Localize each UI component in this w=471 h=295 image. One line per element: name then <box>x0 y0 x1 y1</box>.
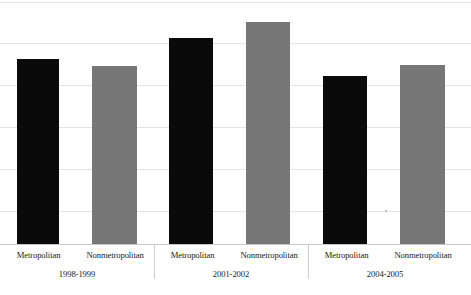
bar-nonmetropolitan-2004-2005 <box>400 65 445 244</box>
bar-nonmetropolitan-1998-1999 <box>92 66 137 244</box>
series-label-nonmetropolitan: Nonmetropolitan <box>74 250 156 260</box>
series-label-metropolitan: Metropolitan <box>154 250 231 260</box>
group-label-1998-1999: 1998-1999 <box>0 269 154 279</box>
bar-metropolitan-2004-2005 <box>323 76 367 244</box>
gridline <box>0 43 471 44</box>
bar-nonmetropolitan-2001-2002 <box>246 22 290 244</box>
series-label-nonmetropolitan: Nonmetropolitan <box>382 250 464 260</box>
gridline <box>0 2 471 3</box>
category-axis-labels: Metropolitan Nonmetropolitan Metropolita… <box>0 245 471 295</box>
plot-area <box>0 0 471 245</box>
series-label-metropolitan: Metropolitan <box>0 250 77 260</box>
bar-metropolitan-1998-1999 <box>17 59 59 244</box>
bar-chart: Metropolitan Nonmetropolitan Metropolita… <box>0 0 471 295</box>
group-label-2004-2005: 2004-2005 <box>308 269 462 279</box>
series-label-metropolitan: Metropolitan <box>308 250 385 260</box>
artifact-speck <box>385 210 387 212</box>
bar-metropolitan-2001-2002 <box>169 38 213 244</box>
series-label-nonmetropolitan: Nonmetropolitan <box>228 250 310 260</box>
group-label-2001-2002: 2001-2002 <box>154 269 308 279</box>
